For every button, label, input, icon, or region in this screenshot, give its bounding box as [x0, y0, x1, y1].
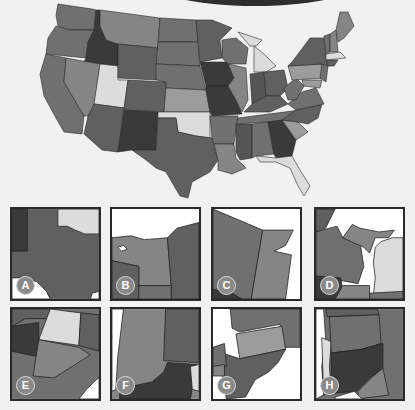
state-massachusetts[interactable] [326, 52, 346, 60]
state-kentucky[interactable] [244, 96, 288, 112]
panel-e[interactable]: E [10, 307, 101, 401]
state-pennsylvania[interactable] [288, 64, 324, 80]
us-map-svg [0, 0, 415, 200]
state-new-york[interactable] [288, 38, 330, 66]
state-wisconsin[interactable] [222, 38, 248, 64]
state-maryland[interactable] [302, 80, 322, 88]
panel-a[interactable]: A [10, 207, 101, 301]
state-mississippi[interactable] [236, 124, 252, 160]
panel-b[interactable]: B [110, 207, 201, 301]
panel-label-badge: G [217, 376, 236, 395]
panel-d[interactable]: D [314, 207, 405, 301]
panel-label-badge: D [320, 276, 339, 295]
state-ohio[interactable] [264, 70, 288, 96]
state-florida[interactable] [256, 156, 310, 196]
state-colorado[interactable] [124, 80, 166, 112]
panel-label-badge: C [217, 276, 236, 295]
state-washington[interactable] [56, 4, 96, 30]
state-new-mexico[interactable] [118, 110, 158, 152]
panel-label-badge: A [16, 276, 35, 295]
state-north-dakota[interactable] [158, 18, 198, 42]
panel-label-badge: E [16, 376, 35, 395]
panel-g[interactable]: G [211, 307, 302, 401]
state-south-dakota[interactable] [156, 42, 200, 66]
panel-label-badge: F [116, 376, 135, 395]
panel-label-badge: H [320, 376, 339, 395]
state-wyoming[interactable] [118, 44, 158, 80]
panel-c[interactable]: C [211, 207, 302, 301]
state-kansas[interactable] [164, 88, 210, 112]
state-arkansas[interactable] [210, 116, 238, 144]
panel-label-badge: B [116, 276, 135, 295]
us-map [0, 0, 415, 200]
state-maine[interactable] [336, 12, 354, 42]
panel-f[interactable]: F [110, 307, 201, 401]
state-connecticut[interactable] [326, 60, 338, 66]
panel-h[interactable]: H [314, 307, 405, 401]
